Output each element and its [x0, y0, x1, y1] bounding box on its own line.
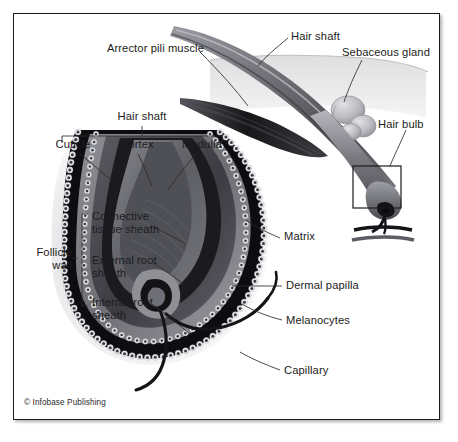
melanocyte-nucleus	[70, 161, 73, 164]
melanocyte-nucleus	[63, 238, 66, 241]
melanocyte-nucleus	[152, 340, 155, 343]
melanocyte-nucleus	[262, 219, 265, 222]
melanocyte-nucleus	[84, 206, 87, 209]
melanocyte-nucleus	[245, 223, 248, 226]
melanocyte-nucleus	[254, 181, 257, 184]
melanocyte-nucleus	[253, 280, 256, 283]
melanocyte-nucleus	[95, 133, 98, 136]
melanocyte-nucleus	[258, 196, 261, 199]
melanocyte-nucleus	[84, 215, 87, 218]
melanocyte-nucleus	[96, 337, 99, 340]
melanocyte-nucleus	[198, 343, 201, 346]
melanocyte-nucleus	[184, 332, 187, 335]
melanocyte-nucleus	[107, 324, 110, 327]
melanocyte-nucleus	[243, 248, 246, 251]
melanocyte-nucleus	[161, 339, 164, 342]
melanocyte-nucleus	[262, 242, 265, 245]
melanocyte-nucleus	[65, 285, 68, 288]
melanocyte-nucleus	[176, 335, 179, 338]
melanocyte-nucleus	[239, 153, 242, 156]
melanocyte-nucleus	[211, 313, 214, 316]
melanocyte-nucleus	[87, 182, 90, 185]
melanocyte-nucleus	[83, 248, 86, 251]
melanocyte-nucleus	[229, 319, 232, 322]
melanocyte-nucleus	[83, 239, 86, 242]
melanocyte-nucleus	[258, 265, 261, 268]
melanocyte-nucleus	[85, 280, 88, 283]
melanocyte-nucleus	[244, 160, 247, 163]
melanocyte-nucleus	[242, 256, 245, 259]
label-hair-shaft-top: Hair shaft	[291, 30, 340, 43]
melanocyte-nucleus	[83, 264, 86, 267]
melanocyte-nucleus	[89, 165, 92, 168]
melanocyte-nucleus	[65, 199, 68, 202]
melanocyte-nucleus	[184, 349, 187, 352]
melanocyte-nucleus	[231, 287, 234, 290]
melanocyte-nucleus	[244, 215, 247, 218]
follicle-cross-section	[52, 129, 270, 365]
melanocyte-nucleus	[68, 168, 71, 171]
melanocyte-nucleus	[64, 277, 67, 280]
melanocyte-nucleus	[222, 301, 225, 304]
melanocyte-nucleus	[63, 230, 66, 233]
melanocyte-nucleus	[209, 133, 212, 136]
melanocyte-nucleus	[262, 234, 265, 237]
melanocyte-nucleus	[240, 190, 243, 193]
melanocyte-nucleus	[138, 355, 141, 358]
melanocyte-nucleus	[83, 256, 86, 259]
melanocyte-nucleus	[116, 350, 119, 353]
melanocyte-nucleus	[85, 198, 88, 201]
melanocyte-nucleus	[217, 307, 220, 310]
melanocyte-nucleus	[177, 352, 180, 355]
melanocyte-nucleus	[260, 257, 263, 260]
label-external-root-sheath: External root sheath	[92, 254, 157, 279]
melanocyte-nucleus	[235, 174, 238, 177]
melanocyte-nucleus	[123, 352, 126, 355]
melanocyte-nucleus	[109, 346, 112, 349]
melanocyte-nucleus	[205, 318, 208, 321]
melanocyte-nucleus	[219, 131, 222, 134]
publisher-credit: © Infobase Publishing	[24, 398, 106, 407]
melanocyte-nucleus	[251, 174, 254, 177]
melanocyte-nucleus	[70, 300, 73, 303]
label-follicle-wall: Follicle wall	[14, 246, 72, 271]
melanocyte-nucleus	[211, 335, 214, 338]
melanocyte-nucleus	[128, 337, 131, 340]
hair-follicle-illustration	[14, 14, 438, 418]
label-hair-bulb: Hair bulb	[378, 118, 424, 131]
melanocyte-nucleus	[84, 223, 87, 226]
label-cortex: Cortex	[110, 138, 164, 151]
melanocyte-nucleus	[244, 239, 247, 242]
melanocyte-nucleus	[83, 272, 86, 275]
label-dermal-papilla: Dermal papilla	[286, 279, 359, 292]
label-medulla: Medulla	[172, 138, 232, 151]
melanocyte-nucleus	[245, 231, 248, 234]
melanocyte-nucleus	[243, 206, 246, 209]
melanocyte-nucleus	[232, 167, 235, 170]
melanocyte-nucleus	[80, 320, 83, 323]
melanocyte-nucleus	[67, 292, 70, 295]
melanocyte-nucleus	[198, 323, 201, 326]
melanocyte-nucleus	[88, 173, 91, 176]
melanocyte-nucleus	[131, 354, 134, 357]
melanocyte-nucleus	[237, 182, 240, 185]
label-sebaceous-gland: Sebaceous gland	[342, 46, 430, 59]
melanocyte-nucleus	[102, 342, 105, 345]
label-connective-tissue-sheath: Connective tissue sheath	[92, 210, 159, 235]
melanocyte-nucleus	[169, 354, 172, 357]
melanocyte-nucleus	[242, 198, 245, 201]
melanocyte-nucleus	[217, 330, 220, 333]
melanocyte-nucleus	[250, 287, 253, 290]
melanocyte-nucleus	[146, 356, 149, 359]
melanocyte-nucleus	[261, 211, 264, 214]
melanocyte-nucleus	[66, 184, 69, 187]
melanocyte-nucleus	[90, 157, 93, 160]
melanocyte-nucleus	[240, 264, 243, 267]
melanocyte-nucleus	[235, 147, 238, 150]
melanocyte-nucleus	[64, 207, 67, 210]
melanocyte-nucleus	[154, 356, 157, 359]
melanocyte-nucleus	[67, 176, 70, 179]
melanocyte-nucleus	[261, 250, 264, 253]
melanocyte-nucleus	[247, 167, 250, 170]
label-cuticle: Cuticle	[46, 138, 100, 151]
